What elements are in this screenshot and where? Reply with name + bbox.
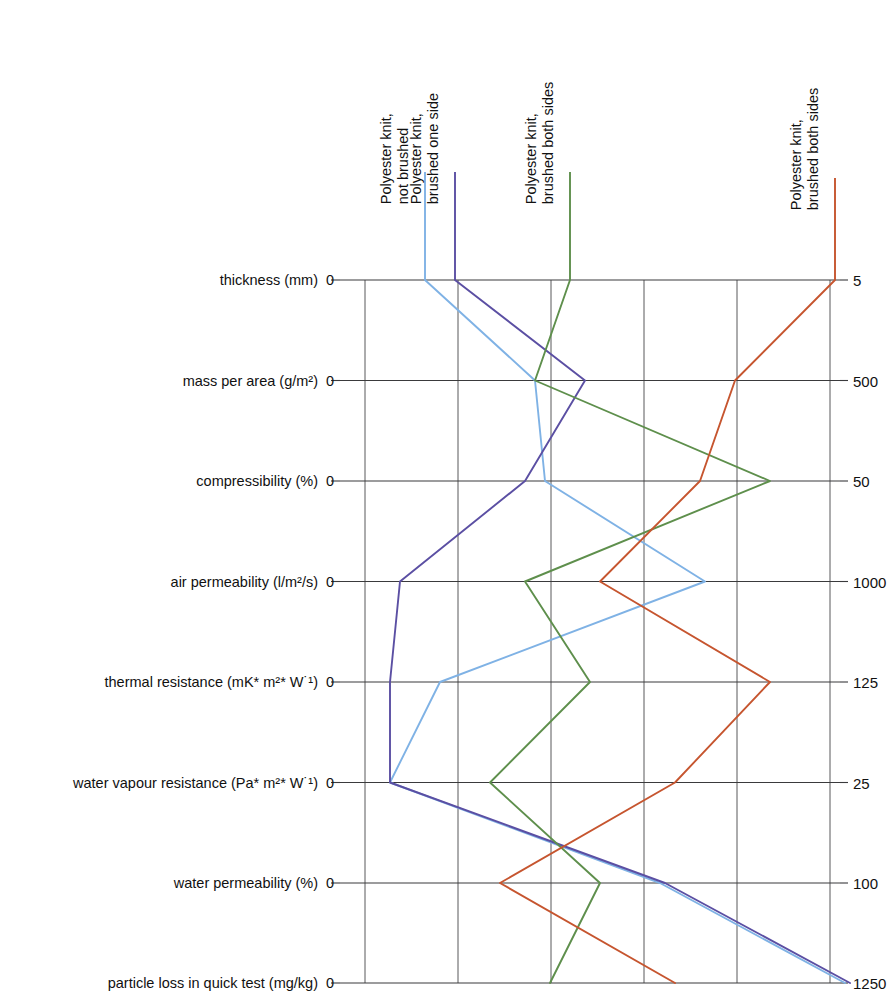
zero-label-6: 0: [326, 876, 334, 891]
zero-label-0: 0: [326, 273, 334, 288]
series-legend-label-line1-2: Polyester knit,: [523, 82, 540, 205]
zero-label-1: 0: [326, 374, 334, 389]
zero-label-7: 0: [326, 976, 334, 991]
right-axis-label-7: 1250: [853, 976, 886, 991]
row-label-2: compressibility (%): [196, 474, 318, 489]
right-axis-label-1: 500: [853, 374, 878, 389]
series-legend-label-line1-3: Polyester knit,: [788, 88, 805, 211]
right-axis-label-6: 100: [853, 876, 878, 891]
series-line-1: [390, 280, 850, 983]
row-label-7: particle loss in quick test (mg/kg): [108, 976, 318, 991]
row-label-6: water permeability (%): [174, 876, 318, 891]
right-axis-label-4: 125: [853, 675, 878, 690]
axis-rows: [331, 280, 848, 983]
series-line-2: [490, 280, 770, 983]
series-legend-label-line2-2: brushed both sides: [540, 82, 557, 205]
series-lines: [390, 280, 850, 983]
legend-stems: [425, 172, 835, 280]
series-legend-label-line2-1: brushed one side: [425, 93, 442, 204]
gridlines: [365, 280, 830, 983]
row-label-3: air permeability (l/m²/s): [171, 575, 318, 590]
zero-label-3: 0: [326, 575, 334, 590]
zero-label-4: 0: [326, 675, 334, 690]
series-legend-label-line1-0: Polyester knit,: [378, 113, 395, 204]
row-label-0: thickness (mm): [220, 273, 318, 288]
series-legend-label-1: Polyester knit,brushed one side: [408, 93, 442, 204]
row-label-5: water vapour resistance (Pa* m²* W˙¹): [73, 776, 318, 791]
row-label-4: thermal resistance (mK* m²* W˙¹): [105, 675, 319, 690]
zero-label-2: 0: [326, 474, 334, 489]
right-axis-label-5: 25: [853, 776, 870, 791]
right-axis-label-2: 50: [853, 474, 870, 489]
series-line-3: [500, 280, 835, 983]
zero-label-5: 0: [326, 776, 334, 791]
row-label-1: mass per area (g/m²): [183, 374, 318, 389]
series-legend-label-2: Polyester knit,brushed both sides: [523, 82, 557, 205]
right-axis-label-0: 5: [853, 273, 861, 288]
series-legend-label-line1-1: Polyester knit,: [408, 93, 425, 204]
series-legend-label-3: Polyester knit,brushed both sides: [788, 88, 822, 211]
series-legend-label-line2-3: brushed both sides: [805, 88, 822, 211]
right-axis-label-3: 1000: [853, 575, 886, 590]
